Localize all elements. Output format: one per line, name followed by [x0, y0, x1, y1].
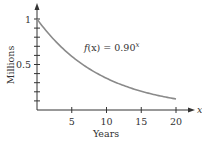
x-axis-arrow-icon [188, 108, 195, 113]
x-tick-label: 15 [135, 116, 147, 127]
x-tick-label: 20 [170, 116, 182, 127]
x-axis: x [37, 104, 202, 115]
y-axis-title: Millions [5, 46, 16, 85]
x-tick-label: 10 [100, 116, 112, 127]
x-axis-title: Years [92, 128, 119, 139]
exponential-decay-chart: x 10.5 5101520 Years Millions f(x) = 0.9… [0, 0, 202, 144]
x-axis-symbol: x [197, 104, 202, 115]
y-tick-label: 0.5 [16, 59, 31, 70]
y-axis-arrow-icon [35, 3, 40, 10]
y-tick-labels: 10.5 [16, 14, 31, 71]
decay-curve [37, 19, 176, 99]
y-tick-label: 1 [25, 14, 31, 25]
function-annotation: f(x) = 0.90x [83, 41, 139, 53]
x-tick-label: 5 [69, 116, 75, 127]
